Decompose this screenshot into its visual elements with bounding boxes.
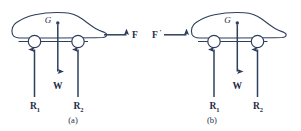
rear-wheel-b — [251, 35, 263, 47]
applied-force-prime-b: ' — [160, 28, 162, 36]
panel-caption-b: (b) — [207, 115, 217, 125]
weight-label-b: W — [233, 81, 243, 91]
svg-text:2: 2 — [260, 106, 263, 113]
rear-wheel-a — [72, 35, 84, 47]
weight-label-a: W — [53, 81, 63, 91]
reaction-r1-label-a: R 1 — [30, 101, 40, 113]
applied-force-label-a: F — [132, 30, 138, 40]
panel-caption-a: (a) — [68, 115, 78, 125]
panel-b: F ' G W R 1 — [152, 13, 286, 125]
front-wheel-b — [208, 35, 220, 47]
svg-text:1: 1 — [216, 106, 219, 113]
svg-text:1: 1 — [37, 106, 40, 113]
cg-label-b: G — [224, 15, 231, 25]
center-of-gravity-dot-b — [236, 21, 239, 24]
front-wheel-a — [28, 35, 40, 47]
car-body-outline-a — [12, 13, 107, 38]
reaction-r1-label-b: R 1 — [210, 101, 220, 113]
reaction-r2-label-b: R 2 — [253, 101, 263, 113]
car-body-outline-b — [191, 13, 286, 38]
panel-a: G W R 1 R 2 F (a) — [12, 13, 138, 125]
cg-label-a: G — [45, 15, 52, 25]
center-of-gravity-dot-a — [56, 21, 59, 24]
svg-text:2: 2 — [80, 106, 83, 113]
reaction-r2-label-a: R 2 — [74, 101, 84, 113]
applied-force-label-b: F — [152, 30, 158, 40]
figure-container: G W R 1 R 2 F (a) F — [0, 0, 301, 131]
force-diagram: G W R 1 R 2 F (a) F — [0, 0, 301, 131]
